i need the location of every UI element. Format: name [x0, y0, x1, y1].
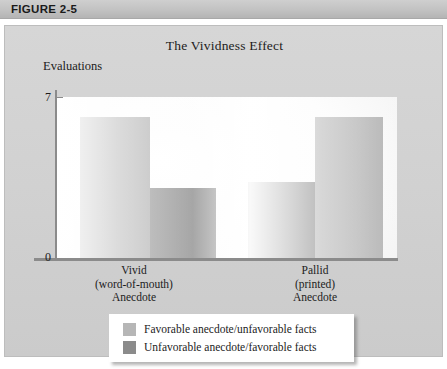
plot-area — [56, 97, 397, 259]
y-tick-label-0: 0 — [35, 250, 51, 265]
x-category-label-pallid: Pallid (printed) Anecdote — [235, 264, 395, 305]
x-category-line: (word-of-mouth) — [54, 278, 214, 292]
figure-header-bar: FIGURE 2-5 — [0, 0, 447, 19]
y-axis-label: Evaluations — [43, 59, 102, 74]
legend-item-label: Unfavorable anecdote/favorable facts — [144, 339, 316, 355]
legend-item-label: Favorable anecdote/unfavorable facts — [144, 321, 316, 337]
x-category-line: Anecdote — [235, 291, 395, 305]
bar-pallid-favorable — [315, 117, 383, 259]
y-tick-mark-7 — [56, 97, 63, 98]
x-category-line: Vivid — [54, 264, 214, 278]
bar-vivid-unfavorable — [150, 188, 216, 259]
x-axis-line — [34, 258, 398, 261]
bar-vivid-favorable — [80, 117, 150, 259]
figure-panel: The Vividness Effect Evaluations 7 0 Viv… — [4, 25, 443, 357]
bar-pallid-unfavorable — [248, 182, 315, 259]
chart-title: The Vividness Effect — [5, 38, 444, 54]
x-category-label-vivid: Vivid (word-of-mouth) Anecdote — [54, 264, 214, 305]
figure-number-label: FIGURE 2-5 — [11, 3, 77, 15]
y-axis-line — [55, 90, 57, 260]
x-category-line: (printed) — [235, 278, 395, 292]
x-category-line: Pallid — [235, 264, 395, 278]
legend-swatch-icon — [123, 341, 136, 354]
chart-legend: Favorable anecdote/unfavorable facts Unf… — [109, 314, 354, 362]
x-category-line: Anecdote — [54, 291, 214, 305]
legend-swatch-icon — [123, 323, 136, 336]
y-tick-label-7: 7 — [35, 90, 51, 105]
